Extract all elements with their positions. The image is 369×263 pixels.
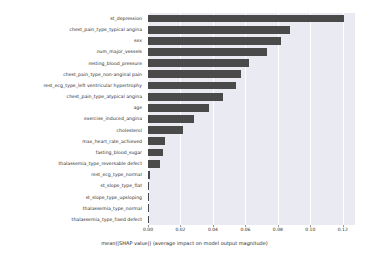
x-axis-tick-label: 0.06 (240, 227, 250, 233)
y-axis-tick-label: chest_pain_type_non-anginal pain (63, 72, 142, 77)
bar-row (148, 91, 355, 102)
bar (148, 93, 223, 101)
bar-row (148, 180, 355, 191)
x-axis-title: mean(|SHAP value|) (average impact on mo… (0, 240, 369, 247)
bar (148, 70, 241, 78)
bar-row (148, 192, 355, 203)
bar (148, 204, 149, 212)
bar (148, 26, 290, 34)
bar (148, 104, 209, 112)
y-axis-tick-label: st_depression (110, 16, 142, 21)
y-axis-tick-label: age (133, 105, 142, 110)
bar (148, 171, 150, 179)
y-axis-tick-label: rest_ecg_type_left ventricular hypertrop… (44, 83, 142, 88)
y-axis-tick-label: fasting_blood_sugar (96, 150, 142, 155)
bar (148, 48, 267, 56)
bar (148, 37, 281, 45)
bar (148, 160, 160, 168)
x-axis-tick-label: 0.08 (273, 227, 283, 233)
bar-series (148, 13, 355, 225)
bar (148, 15, 344, 23)
bar (148, 59, 249, 67)
bar-row (148, 58, 355, 69)
bar-row (148, 169, 355, 180)
bar-row (148, 13, 355, 24)
bar (148, 149, 163, 157)
x-axis-tick-label: 0.12 (338, 227, 348, 233)
plot-area (148, 13, 355, 225)
bar-row (148, 69, 355, 80)
x-axis-tick-label: 0.10 (305, 227, 315, 233)
bar (148, 137, 165, 145)
bar-row (148, 35, 355, 46)
y-axis-tick-label: thalassemia_type_fixed defect (72, 217, 142, 222)
bar (148, 216, 149, 224)
bar-row (148, 203, 355, 214)
bar-row (148, 158, 355, 169)
y-axis-tick-label: num_major_vessels (97, 49, 142, 54)
y-axis-tick-label: chest_pain_type_typical angina (69, 27, 142, 32)
bar (148, 126, 183, 134)
bar-row (148, 24, 355, 35)
y-axis-tick-label: exercise_induced_angina (84, 116, 142, 121)
bar-row (148, 113, 355, 124)
y-axis-tick-label: max_heart_rate_achieved (82, 139, 142, 144)
x-axis-tick-label: 0.02 (175, 227, 185, 233)
y-axis-tick-label: sex (134, 38, 142, 43)
bar-row (148, 125, 355, 136)
bar-row (148, 102, 355, 113)
x-axis-tick-label: 0.00 (143, 227, 153, 233)
y-axis-tick-label: cholesterol (117, 128, 142, 133)
bar (148, 193, 149, 201)
y-axis-tick-label: thalassemia_type_reversable defect (58, 161, 142, 166)
bar-row (148, 147, 355, 158)
x-axis-tick-label: 0.04 (208, 227, 218, 233)
bar (148, 82, 236, 90)
bar-row (148, 46, 355, 57)
bar (148, 182, 149, 190)
y-axis-tick-label: chest_pain_type_atypical angina (67, 94, 142, 99)
shap-summary-figure: st_depressionchest_pain_type_typical ang… (0, 0, 369, 263)
y-axis-tick-labels: st_depressionchest_pain_type_typical ang… (0, 13, 145, 225)
x-axis-tick-labels: 0.000.020.040.060.080.100.12 (148, 225, 355, 235)
y-axis-tick-label: resting_blood_pressure (88, 61, 142, 66)
y-axis-tick-label: st_slope_type_upsloping (86, 195, 142, 200)
bar (148, 115, 194, 123)
bar-row (148, 80, 355, 91)
y-axis-tick-label: st_slope_type_flat (101, 183, 142, 188)
bar-row (148, 214, 355, 225)
y-axis-tick-label: thalassemia_type_normal (83, 206, 142, 211)
y-axis-tick-label: rest_ecg_type_normal (91, 172, 142, 177)
bar-row (148, 136, 355, 147)
